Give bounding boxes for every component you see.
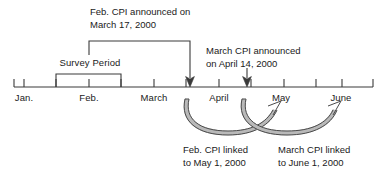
feb-caption-line-2: March 17, 2000: [90, 19, 190, 32]
march-caption-line-2: on April 14, 2000: [206, 58, 301, 71]
march-cpi-announcement-caption: March CPI announced on April 14, 2000: [206, 45, 301, 71]
month-label-june: June: [330, 92, 351, 105]
month-label-feb: Feb.: [79, 92, 98, 105]
feb-connector-arrowhead-icon: [186, 77, 195, 88]
month-label-jan: Jan.: [15, 92, 33, 105]
feb-cpi-link-caption: Feb. CPI linked to May 1, 2000: [183, 144, 248, 170]
timeline-axis: [14, 79, 373, 87]
month-tick-marks: [24, 79, 342, 87]
march-link-line-2: to June 1, 2000: [278, 157, 350, 170]
feb-cpi-announcement-caption: Feb. CPI announced on March 17, 2000: [90, 6, 190, 32]
survey-period-label: Survey Period: [60, 57, 121, 70]
march-arrow-arrowhead-icon: [243, 77, 252, 88]
march-link-line-1: March CPI linked: [278, 144, 350, 157]
month-label-may: May: [272, 92, 290, 105]
feb-link-line-1: Feb. CPI linked: [183, 144, 248, 157]
march-cpi-announcement-arrow: [243, 68, 252, 87]
feb-caption-line-1: Feb. CPI announced on: [90, 6, 190, 19]
march-caption-line-1: March CPI announced: [206, 45, 301, 58]
month-label-march: March: [141, 92, 168, 105]
month-label-april: April: [209, 92, 229, 105]
march-cpi-link-caption: March CPI linked to June 1, 2000: [278, 144, 350, 170]
cpi-timeline-diagram: Jan. Feb. March April May June Survey Pe…: [0, 0, 387, 178]
feb-link-line-2: to May 1, 2000: [183, 157, 248, 170]
